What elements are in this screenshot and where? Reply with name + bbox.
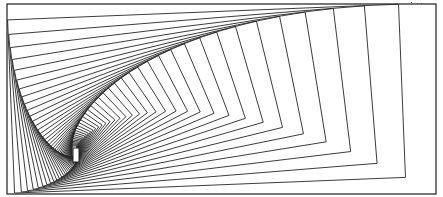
nested-rectangles (8, 4, 406, 193)
speck-mark (417, 3, 418, 4)
nested-rectangle (10, 8, 350, 190)
speck-mark (411, 2, 412, 3)
speck-mark (421, 3, 422, 4)
spiral-drawing (0, 0, 443, 197)
innermost-rectangle (73, 148, 79, 162)
nested-rectangles-figure (0, 0, 443, 197)
